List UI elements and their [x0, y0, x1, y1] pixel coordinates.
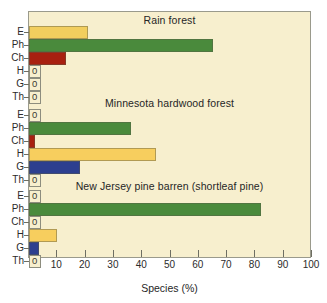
- x-tick-mark: [56, 250, 57, 257]
- x-tick-label: 50: [164, 259, 175, 270]
- plot-area: Rain forest 000 Minnesota hardwood fores…: [28, 11, 311, 258]
- bar-row: 0: [29, 65, 312, 78]
- x-tick-mark: [198, 250, 199, 257]
- bar-ph: [29, 122, 131, 135]
- y-tick: [24, 115, 29, 116]
- y-tick: [24, 222, 29, 223]
- bar-row: 0: [29, 109, 312, 122]
- bar-row: [29, 26, 312, 39]
- zero-value-label: 0: [32, 64, 37, 77]
- y-axis-label-g: G: [16, 241, 24, 254]
- y-tick: [24, 58, 29, 59]
- x-tick-label: 30: [107, 259, 118, 270]
- x-tick-label: 60: [192, 259, 203, 270]
- y-axis-label-th: Th: [12, 173, 24, 186]
- x-tick-label: 70: [221, 259, 232, 270]
- y-tick: [24, 196, 29, 197]
- y-axis-label-ch: Ch: [11, 134, 24, 147]
- y-axis-label-ch: Ch: [11, 215, 24, 228]
- y-tick: [24, 141, 29, 142]
- y-tick: [24, 84, 29, 85]
- x-tick-mark: [85, 250, 86, 257]
- bar-ph: [29, 203, 261, 216]
- bar-row: [29, 148, 312, 161]
- y-axis-label-g: G: [16, 160, 24, 173]
- x-tick-mark: [141, 250, 142, 257]
- x-tick-mark: [226, 250, 227, 257]
- x-axis-label: Species (%): [28, 282, 311, 294]
- y-axis-label-e: E: [17, 25, 24, 38]
- bar-row: [29, 52, 312, 65]
- bar-row: [29, 135, 312, 148]
- y-axis-label-h: H: [17, 228, 24, 241]
- y-axis-label-e: E: [17, 189, 24, 202]
- x-tick-label: 80: [249, 259, 260, 270]
- bar-ph: [29, 39, 213, 52]
- y-axis-label-th: Th: [12, 254, 24, 267]
- bar-h: [29, 229, 57, 242]
- bar-row: [29, 203, 312, 216]
- zero-value-label: 0: [32, 189, 37, 202]
- x-tick-label: 100: [303, 259, 320, 270]
- y-tick: [24, 167, 29, 168]
- x-tick-mark: [283, 250, 284, 257]
- y-axis-label-ph: Ph: [12, 121, 24, 134]
- x-tick-label: 90: [277, 259, 288, 270]
- bar-row: [29, 161, 312, 174]
- panel-minnesota-hardwood-forest: Minnesota hardwood forest 00: [29, 95, 310, 178]
- panel-rain-forest: Rain forest 000: [29, 12, 310, 95]
- x-tick-label: 20: [79, 259, 90, 270]
- zero-value-label: 0: [32, 77, 37, 90]
- bar-row: 0: [29, 78, 312, 91]
- y-axis-labels: EPhChHGThEPhChHGThEPhChHGTh: [0, 11, 27, 258]
- y-tick: [24, 235, 29, 236]
- panel-title: Rain forest: [29, 14, 310, 26]
- y-axis-label-ph: Ph: [12, 38, 24, 51]
- bar-row: [29, 229, 312, 242]
- y-axis-label-h: H: [17, 64, 24, 77]
- x-tick-label: 10: [51, 259, 62, 270]
- panel-title: Minnesota hardwood forest: [29, 97, 310, 109]
- bar-row: 0: [29, 190, 312, 203]
- x-tick-mark: [170, 250, 171, 257]
- panel-new-jersey-pine-barren: New Jersey pine barren (shortleaf pine) …: [29, 178, 310, 259]
- x-tick-mark: [254, 250, 255, 257]
- bar-row: [29, 242, 312, 255]
- y-tick: [24, 128, 29, 129]
- x-tick-label: 40: [136, 259, 147, 270]
- y-axis-label-ch: Ch: [11, 51, 24, 64]
- bar-ch: [29, 135, 35, 148]
- y-tick: [24, 154, 29, 155]
- y-tick: [24, 209, 29, 210]
- y-axis-label-ph: Ph: [12, 202, 24, 215]
- y-axis-label-e: E: [17, 108, 24, 121]
- bar-row: 0: [29, 216, 312, 229]
- bar-row: [29, 122, 312, 135]
- x-tick-mark: [113, 250, 114, 257]
- chart-figure: EPhChHGThEPhChHGThEPhChHGTh Rain forest …: [0, 0, 327, 303]
- y-tick: [24, 32, 29, 33]
- x-tick-mark: [311, 250, 312, 257]
- zero-value-label: 0: [32, 215, 37, 228]
- y-tick: [24, 71, 29, 72]
- zero-value-label: 0: [32, 108, 37, 121]
- y-tick: [24, 45, 29, 46]
- x-axis-ticks: 102030405060708090100: [28, 258, 311, 284]
- y-axis-label-h: H: [17, 147, 24, 160]
- y-tick: [24, 248, 29, 249]
- bar-row: [29, 39, 312, 52]
- bar-e: [29, 26, 88, 39]
- y-axis-label-g: G: [16, 77, 24, 90]
- bar-h: [29, 148, 156, 161]
- y-axis-label-th: Th: [12, 90, 24, 103]
